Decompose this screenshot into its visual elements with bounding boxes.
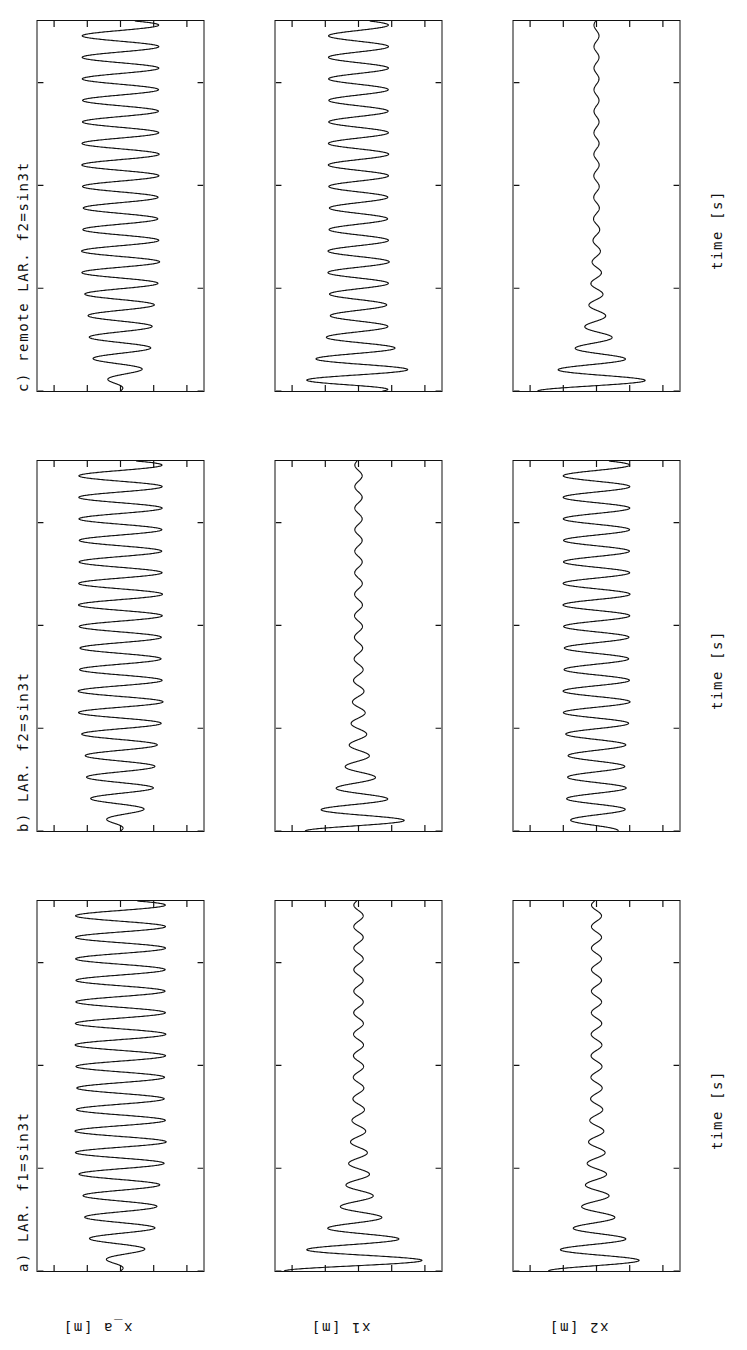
plot-frame-a-x2: 0.040.020-0.02-0.040102030 (512, 900, 680, 1272)
figure-canvas: a) LAR. f1=sin3tx_a [m]0.20.10-0.1-0.201… (0, 0, 747, 1350)
rotated-figure-wrapper: a) LAR. f1=sin3tx_a [m]0.20.10-0.1-0.201… (0, 0, 747, 1350)
plot-frame-b-x2: 0.040.020-0.02-0.040102030 (512, 460, 680, 832)
panel-title-b: b) LAR. f2=sin3t (14, 672, 30, 832)
data-trace-b-x_a (78, 461, 163, 831)
data-trace-a-x1 (284, 901, 422, 1271)
plot-cell-a-x1: x1 [m]0.040.020-0.02-0.040102030 (252, 890, 488, 1330)
data-trace-b-x1 (305, 461, 404, 831)
plot-cell-a-x2: x2 [m]time [s]0.040.020-0.02-0.040102030 (490, 890, 726, 1330)
plot-cell-c-x2: time [s]0.040.020-0.02-0.040102030 (490, 10, 726, 450)
panel-title-c: c) remote LAR. f2=sin3t (14, 161, 30, 392)
plot-cell-b-x_a: b) LAR. f2=sin3t0.20.10-0.1-0.20102030 (14, 450, 250, 890)
y-axis-label-x2: x2 [m] (548, 1320, 608, 1336)
data-trace-a-x_a (75, 901, 166, 1271)
x-axis-label-b: time [s] (708, 630, 724, 710)
panel-title-a: a) LAR. f1=sin3t (14, 1112, 30, 1272)
plot-frame-b-x1: 0.040.020-0.02-0.040102030 (274, 460, 442, 832)
plot-cell-c-x_a: c) remote LAR. f2=sin3t0.20.10-0.1-0.201… (14, 10, 250, 450)
plot-cell-c-x1: 0.040.020-0.02-0.040102030 (252, 10, 488, 450)
x-axis-label-c: time [s] (708, 190, 724, 270)
data-trace-c-x_a (81, 21, 159, 391)
data-trace-c-x2 (537, 21, 645, 391)
plot-frame-b-x_a: 0.20.10-0.1-0.20102030 (36, 460, 204, 832)
panel-grid: a) LAR. f1=sin3tx_a [m]0.20.10-0.1-0.201… (0, 0, 747, 1350)
plot-frame-c-x2: 0.040.020-0.02-0.040102030 (512, 20, 680, 392)
plot-frame-c-x_a: 0.20.10-0.1-0.20102030 (36, 20, 204, 392)
plot-cell-b-x2: time [s]0.040.020-0.02-0.040102030 (490, 450, 726, 890)
data-trace-b-x2 (563, 461, 630, 831)
plot-cell-b-x1: 0.040.020-0.02-0.040102030 (252, 450, 488, 890)
y-axis-label-x_a: x_a [m] (62, 1320, 132, 1336)
x-axis-label-a: time [s] (708, 1070, 724, 1150)
data-trace-a-x2 (548, 901, 639, 1271)
plot-cell-a-x_a: a) LAR. f1=sin3tx_a [m]0.20.10-0.1-0.201… (14, 890, 250, 1330)
data-trace-c-x1 (306, 21, 407, 391)
y-axis-label-x1: x1 [m] (310, 1320, 370, 1336)
plot-frame-c-x1: 0.040.020-0.02-0.040102030 (274, 20, 442, 392)
plot-frame-a-x1: 0.040.020-0.02-0.040102030 (274, 900, 442, 1272)
plot-frame-a-x_a: 0.20.10-0.1-0.20102030 (36, 900, 204, 1272)
